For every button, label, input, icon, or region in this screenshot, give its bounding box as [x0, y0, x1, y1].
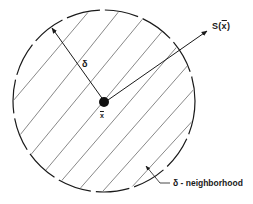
center-point: [99, 97, 109, 107]
direction-label: S(x): [212, 22, 230, 31]
direction-arrow: [108, 31, 207, 100]
center-label: x: [100, 112, 104, 119]
hatching: [0, 0, 240, 200]
neighborhood-label: δ - neighborhood: [173, 179, 243, 188]
radius-arrow: [52, 28, 104, 101]
radius-label: δ: [82, 60, 87, 69]
